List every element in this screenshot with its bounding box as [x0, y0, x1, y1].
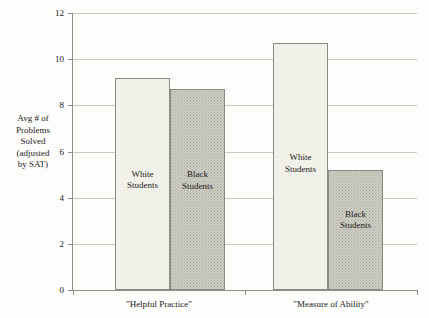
x-axis-tick-left [73, 290, 74, 295]
bar-label-line-white-1-second: Students [116, 180, 169, 192]
y-axis-title-line-3: Solved [0, 136, 66, 148]
plot-area: 12 10 8 6 4 2 0 [72, 13, 417, 291]
bar-label-measure-of-ability-black: Black Students [329, 209, 382, 232]
bar-measure-of-ability-black: Black Students [328, 170, 383, 290]
y-axis-title-line-5: by SAT) [0, 159, 66, 171]
tick-mark-2 [68, 244, 73, 245]
x-axis-tick-right [417, 290, 418, 295]
bar-label-line-black-1: Black [171, 169, 224, 181]
bar-label-helpful-practice-black: Black Students [171, 169, 224, 192]
y-axis-title-line-1: Avg # of [0, 113, 66, 125]
tick-mark-12 [68, 13, 73, 14]
y-tick-label-6: 6 [60, 147, 65, 156]
x-axis-label-measure-of-ability: "Measure of Ability" [245, 299, 417, 310]
bar-helpful-practice-black: Black Students [170, 89, 225, 290]
bar-label-line-black-2: Black [329, 209, 382, 221]
tick-mark-6 [68, 152, 73, 153]
bar-chart: Avg # of Problems Solved (adjusted by SA… [0, 0, 429, 318]
y-axis-title: Avg # of Problems Solved (adjusted by SA… [0, 113, 66, 171]
bar-label-line-white-2-second: Students [274, 164, 327, 176]
gridline-10 [73, 59, 417, 60]
y-tick-label-10: 10 [55, 55, 64, 64]
y-tick-label-4: 4 [60, 193, 65, 202]
tick-mark-4 [68, 198, 73, 199]
bar-label-line-white-2: White [274, 152, 327, 164]
x-axis-label-helpful-practice: "Helpful Practice" [73, 299, 245, 310]
y-tick-label-2: 2 [60, 239, 65, 248]
y-tick-label-8: 8 [60, 101, 65, 110]
bar-label-measure-of-ability-white: White Students [274, 152, 327, 175]
x-axis-tick-middle [245, 290, 246, 295]
y-tick-label-0: 0 [60, 286, 65, 295]
bar-measure-of-ability-white: White Students [273, 43, 328, 290]
bar-label-line-black-2-second: Students [329, 220, 382, 232]
bar-label-helpful-practice-white: White Students [116, 169, 169, 192]
y-tick-label-12: 12 [55, 9, 64, 18]
bar-label-line-black-1-second: Students [171, 181, 224, 193]
y-axis-title-line-2: Problems [0, 125, 66, 137]
gridline-12 [73, 13, 417, 14]
bar-label-line-white-1: White [116, 169, 169, 181]
y-axis-title-line-4: (adjusted [0, 148, 66, 160]
tick-mark-8 [68, 105, 73, 106]
bar-helpful-practice-white: White Students [115, 78, 170, 290]
tick-mark-10 [68, 59, 73, 60]
